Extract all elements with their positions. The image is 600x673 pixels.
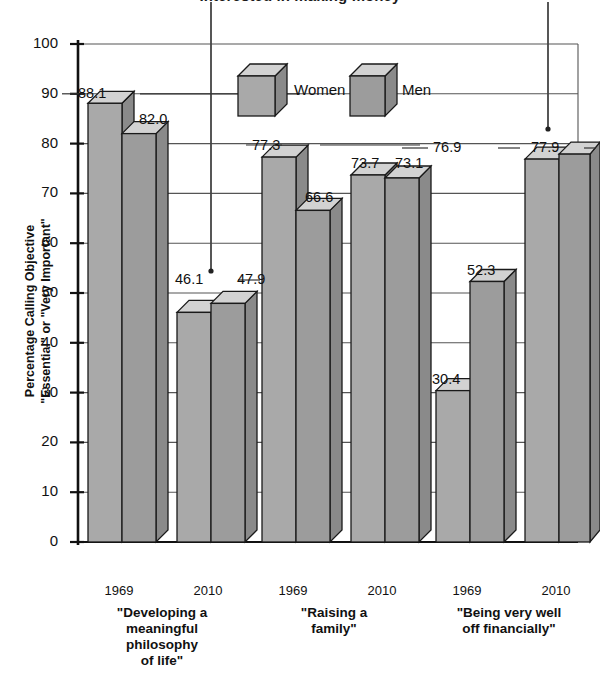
bar-front — [351, 175, 385, 542]
bar-men-1969-financially — [470, 270, 516, 543]
value-label-men-1969-financially: 52.3 — [467, 262, 495, 278]
bar-men-1969-philosophy — [122, 122, 168, 542]
legend-swatch-women — [238, 64, 287, 116]
leader-dot-left — [208, 268, 213, 273]
y-tick-label-10: 10 — [24, 482, 58, 499]
bar-front — [211, 303, 245, 542]
bar-men-2010-financially — [559, 142, 600, 542]
x-category-label-financially: "Being very well off financially" — [425, 605, 593, 637]
bar-side — [156, 122, 168, 542]
value-label-women-2010-family: 73.7 — [351, 155, 379, 171]
bar-side — [419, 166, 431, 542]
y-tick-label-100: 100 — [24, 34, 58, 51]
bar-men-2010-family — [385, 166, 431, 542]
value-label-women-1969-financially: 30.4 — [432, 371, 460, 387]
x-year-label-philosophy-2010: 2010 — [183, 583, 233, 598]
bar-front — [88, 103, 122, 542]
y-tick-label-40: 40 — [24, 333, 58, 350]
x-year-label-financially-1969: 1969 — [442, 583, 492, 598]
y-tick-label-70: 70 — [24, 183, 58, 200]
value-label-men-1969-family: 66.6 — [305, 189, 333, 205]
x-year-label-family-1969: 1969 — [268, 583, 318, 598]
y-tick-label-90: 90 — [24, 84, 58, 101]
value-label-men-1969-philosophy: 82.0 — [139, 111, 167, 127]
bar-men-1969-family — [296, 198, 342, 542]
x-category-line-1: "Developing a — [88, 605, 236, 621]
value-label-men-2010-family: 73.1 — [395, 155, 423, 171]
y-tick-label-0: 0 — [24, 532, 58, 549]
legend-cube-front-women — [238, 76, 275, 116]
bar-side — [504, 270, 516, 543]
bar-front — [296, 210, 330, 542]
x-category-line-1: "Raising a — [258, 605, 410, 621]
bar-front — [177, 312, 211, 542]
bar-men-2010-philosophy — [211, 291, 257, 542]
value-label-men-2010-financially: 77.9 — [531, 139, 559, 155]
value-label-women-2010-financially: 76.9 — [433, 139, 461, 155]
bar-front — [122, 134, 156, 542]
bar-front — [385, 178, 419, 542]
bar-side — [330, 198, 342, 542]
y-tick-label-80: 80 — [24, 134, 58, 151]
legend-cube-front-men — [350, 76, 385, 116]
y-tick-label-30: 30 — [24, 383, 58, 400]
x-year-label-financially-2010: 2010 — [531, 583, 581, 598]
bar-front — [436, 391, 470, 542]
y-tick-label-60: 60 — [24, 233, 58, 250]
bar-side — [590, 142, 600, 542]
value-label-women-1969-philosophy: 88.1 — [78, 85, 106, 101]
x-category-line-2: family" — [258, 621, 410, 637]
bar-chart: Interested in making money Percentage Ca… — [0, 0, 600, 673]
x-category-line-2: off financially" — [425, 621, 593, 637]
bar-front — [470, 282, 504, 543]
value-label-women-1969-family: 77.3 — [252, 137, 280, 153]
x-year-label-philosophy-1969: 1969 — [94, 583, 144, 598]
x-category-line-4: of life" — [88, 653, 236, 669]
bar-front — [559, 154, 590, 542]
x-category-line-3: philosophy — [88, 637, 236, 653]
leader-dot-right — [545, 126, 550, 131]
y-tick-label-20: 20 — [24, 432, 58, 449]
value-label-men-2010-philosophy: 47.9 — [237, 271, 265, 287]
x-year-label-family-2010: 2010 — [357, 583, 407, 598]
bar-front — [262, 157, 296, 542]
value-label-women-2010-philosophy: 46.1 — [175, 271, 203, 287]
bar-side — [245, 291, 257, 542]
y-tick-label-50: 50 — [24, 283, 58, 300]
legend-label-men: Men — [402, 81, 431, 98]
x-category-label-philosophy: "Developing a meaningful philosophy of l… — [88, 605, 236, 669]
legend-swatch-men — [350, 64, 397, 116]
legend-label-women: Women — [294, 81, 345, 98]
x-category-line-1: "Being very well — [425, 605, 593, 621]
x-category-label-family: "Raising a family" — [258, 605, 410, 637]
bar-front — [525, 159, 559, 542]
x-category-line-2: meaningful — [88, 621, 236, 637]
